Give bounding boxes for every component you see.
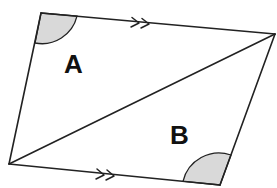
parallelogram-diagram: A B: [0, 0, 277, 188]
region-label-b: B: [170, 120, 189, 150]
shaded-angle-bottom-right: [183, 153, 231, 185]
parallel-arrow-icon-bottom: [96, 169, 114, 180]
shaded-angle-top-left: [35, 13, 77, 44]
region-label-a: A: [64, 49, 83, 79]
parallel-arrow-icon-top: [131, 18, 149, 29]
edge-top: [41, 13, 275, 34]
edge-left: [9, 13, 41, 164]
